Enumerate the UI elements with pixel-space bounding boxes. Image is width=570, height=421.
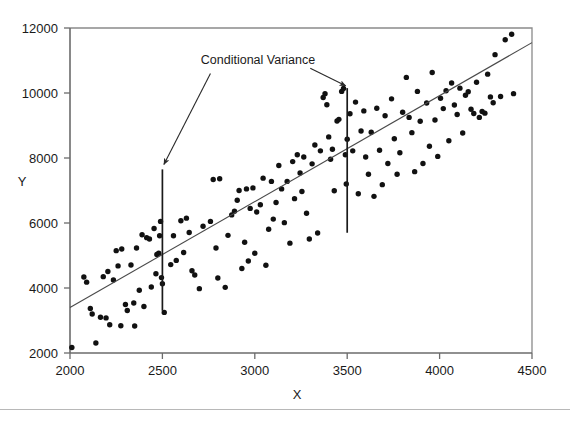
- data-point: [332, 188, 337, 193]
- data-point: [246, 258, 251, 263]
- data-point: [151, 226, 156, 231]
- data-point: [466, 89, 471, 94]
- data-point: [400, 109, 405, 114]
- data-point: [98, 315, 103, 320]
- data-point: [385, 161, 390, 166]
- data-point: [336, 117, 341, 122]
- data-point: [490, 100, 495, 105]
- data-point: [435, 154, 440, 159]
- data-point: [318, 148, 323, 153]
- data-point: [299, 189, 304, 194]
- data-point: [252, 251, 257, 256]
- data-point: [84, 279, 89, 284]
- data-point: [409, 130, 414, 135]
- x-tick-label-4: 4000: [425, 363, 454, 378]
- data-point: [503, 37, 508, 42]
- data-point: [134, 245, 139, 250]
- data-point: [432, 117, 437, 122]
- data-point: [498, 94, 503, 99]
- data-point: [141, 304, 146, 309]
- data-point: [420, 161, 425, 166]
- data-point: [452, 102, 457, 107]
- data-point: [271, 216, 276, 221]
- data-point: [347, 111, 352, 116]
- data-point: [178, 218, 183, 223]
- data-point: [168, 262, 173, 267]
- data-point: [250, 185, 255, 190]
- data-point: [356, 191, 361, 196]
- data-point: [260, 175, 265, 180]
- data-point: [454, 112, 459, 117]
- data-point: [380, 182, 385, 187]
- data-point: [382, 113, 387, 118]
- data-point: [353, 99, 358, 104]
- data-point: [350, 148, 355, 153]
- y-axis-title: Y: [18, 174, 27, 189]
- data-point: [460, 130, 465, 135]
- y-tick-label-4: 10000: [22, 86, 58, 101]
- data-point: [263, 263, 268, 268]
- data-point: [118, 323, 123, 328]
- data-point: [361, 108, 366, 113]
- data-point: [208, 219, 213, 224]
- x-tick-label-2: 3000: [240, 363, 269, 378]
- y-tick-label-0: 2000: [29, 346, 58, 361]
- data-point: [477, 115, 482, 120]
- data-point: [215, 275, 220, 280]
- data-point: [290, 159, 295, 164]
- data-point: [114, 248, 119, 253]
- data-point: [326, 134, 331, 139]
- data-point: [482, 110, 487, 115]
- data-point: [69, 345, 74, 350]
- data-point: [457, 85, 462, 90]
- data-point: [292, 196, 297, 201]
- data-point: [239, 266, 244, 271]
- data-point: [344, 181, 349, 186]
- data-point: [89, 311, 94, 316]
- data-point: [235, 198, 240, 203]
- data-point: [93, 340, 98, 345]
- data-point: [131, 300, 136, 305]
- data-point: [192, 272, 197, 277]
- data-point: [184, 215, 189, 220]
- data-point: [81, 274, 86, 279]
- data-point: [295, 152, 300, 157]
- data-point: [254, 209, 259, 214]
- data-point: [324, 102, 329, 107]
- data-point: [301, 154, 306, 159]
- data-point: [211, 177, 216, 182]
- data-point: [200, 224, 205, 229]
- data-point: [171, 233, 176, 238]
- x-tick-label-3: 3500: [333, 363, 362, 378]
- data-point: [371, 194, 376, 199]
- scatter-plot-figure: 2000 4000 6000 8000 10000 12000 2000 250…: [0, 0, 570, 421]
- data-point: [418, 119, 423, 124]
- data-point: [244, 186, 249, 191]
- data-point: [276, 163, 281, 168]
- data-point: [242, 239, 247, 244]
- data-point: [307, 236, 312, 241]
- data-point: [225, 233, 230, 238]
- data-point: [181, 250, 186, 255]
- data-point: [366, 172, 371, 177]
- data-point: [358, 128, 363, 133]
- data-point: [485, 71, 490, 76]
- data-point: [103, 315, 108, 320]
- data-point: [363, 154, 368, 159]
- data-point: [282, 220, 287, 225]
- data-point: [101, 274, 106, 279]
- data-point: [105, 269, 110, 274]
- x-tick-label-0: 2000: [56, 363, 85, 378]
- data-point: [322, 91, 327, 96]
- data-point: [128, 262, 133, 267]
- data-point: [492, 52, 497, 57]
- data-point: [449, 80, 454, 85]
- data-point: [236, 188, 241, 193]
- data-point: [197, 286, 202, 291]
- data-point: [330, 147, 335, 152]
- data-point: [149, 284, 154, 289]
- data-point: [430, 70, 435, 75]
- data-point: [406, 115, 411, 120]
- data-point: [88, 306, 93, 311]
- y-tick-label-2: 6000: [29, 216, 58, 231]
